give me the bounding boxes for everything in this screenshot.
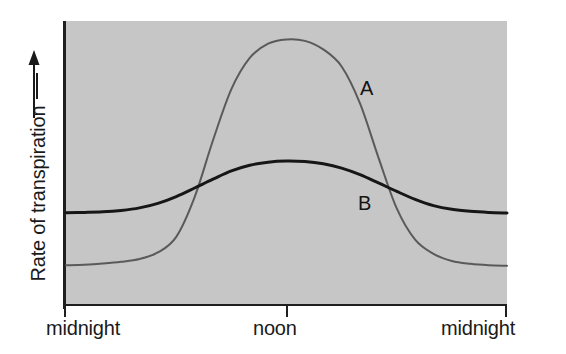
y-axis-label: Rate of transpiration — [23, 47, 53, 307]
curve-label-b: B — [358, 193, 371, 213]
y-axis-label-dash-icon — [36, 73, 38, 99]
x-axis-line — [63, 304, 507, 306]
x-axis-label-midnight-left: midnight — [46, 317, 120, 340]
y-axis-label-text: Rate of transpiration — [27, 106, 50, 282]
x-axis-tick-midnight-left — [64, 306, 66, 317]
x-axis-tick-midnight-right — [505, 306, 507, 317]
x-axis-label-midnight-right: midnight — [441, 317, 515, 340]
transpiration-rate-chart: Rate of transpiration A B midnight noon … — [0, 0, 566, 354]
x-axis-label-noon: noon — [253, 317, 297, 340]
y-axis-line — [63, 21, 66, 309]
curve-label-a: A — [360, 78, 373, 98]
plot-area — [66, 21, 507, 305]
x-axis-tick-noon — [286, 306, 288, 317]
